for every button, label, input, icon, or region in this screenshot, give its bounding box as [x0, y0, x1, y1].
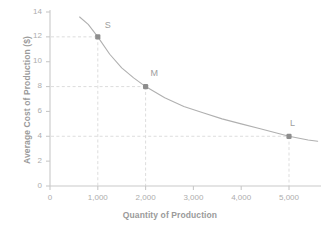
y-axis-tick-label: 4 [20, 131, 42, 140]
x-axis-tick-label: 3,000 [173, 193, 213, 202]
y-axis-tick-label: 12 [20, 31, 42, 40]
x-axis-tick-label: 1,000 [78, 193, 118, 202]
y-axis-tick-label: 6 [20, 106, 42, 115]
data-point-marker[interactable] [143, 84, 148, 89]
data-point-label-m: M [151, 68, 159, 78]
data-point-label-l: L [290, 118, 295, 128]
y-axis-tick-label: 8 [20, 81, 42, 90]
x-axis-tick-label: 4,000 [221, 193, 261, 202]
y-axis-tick-label: 14 [20, 7, 42, 16]
x-axis-tick-label: 0 [30, 193, 70, 202]
data-point-marker[interactable] [286, 134, 291, 139]
chart-container: Average Cost of Production ($) Quantity … [0, 0, 325, 228]
data-point-marker[interactable] [95, 34, 100, 39]
cost-curve [80, 17, 318, 141]
y-axis-title: Average Cost of Production ($) [22, 25, 32, 175]
x-axis-title: Quantity of Production [50, 210, 290, 220]
y-axis-tick-label: 0 [20, 181, 42, 190]
x-axis-tick-label: 5,000 [269, 193, 309, 202]
x-axis-tick-label: 2,000 [126, 193, 166, 202]
y-axis-tick-label: 10 [20, 56, 42, 65]
y-axis-tick-label: 2 [20, 156, 42, 165]
data-point-label-s: S [105, 20, 111, 30]
